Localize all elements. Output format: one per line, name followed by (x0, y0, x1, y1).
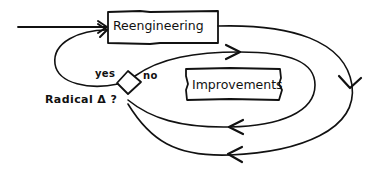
reengineering-label: Reengineering (113, 20, 204, 33)
decision-question-label: Radical Δ ? (45, 94, 117, 105)
yes-label: yes (95, 69, 115, 79)
outer-loop (128, 26, 361, 162)
improvements-label: Improvements (192, 79, 283, 92)
no-label: no (143, 71, 158, 81)
